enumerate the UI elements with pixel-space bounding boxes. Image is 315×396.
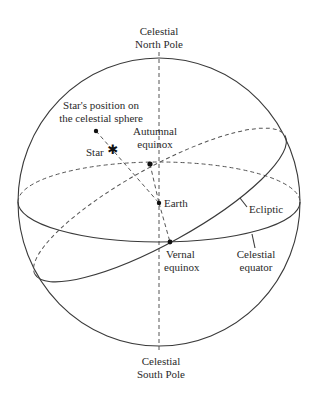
equator-leader <box>252 234 255 248</box>
autumnal-equinox-label-2: equinox <box>137 138 173 150</box>
earth-dot <box>157 201 161 205</box>
south-pole-label-1: Celestial <box>142 355 181 367</box>
autumnal-equinox-label-1: Autumnal <box>133 125 177 137</box>
celestial-equator-label-2: equator <box>240 261 273 273</box>
earth-label: Earth <box>164 197 188 209</box>
ecliptic-label: Ecliptic <box>249 203 283 215</box>
ecliptic-front <box>35 136 304 308</box>
star-label: Star <box>86 146 104 158</box>
north-pole-label-2: North Pole <box>135 38 183 50</box>
autumnal-equinox-dot <box>147 161 152 166</box>
star-position-label-1: Star's position on <box>63 99 139 111</box>
vernal-equinox-label-2: equinox <box>164 261 200 273</box>
ecliptic-leader <box>240 198 247 207</box>
vernal-equinox-dot <box>168 240 173 245</box>
celestial-sphere-diagram: ✱ Celestial North Pole Star's position o… <box>0 0 315 396</box>
autumnal-to-earth-line <box>150 164 159 203</box>
star-icon: ✱ <box>108 142 119 157</box>
north-pole-label-1: Celestial <box>140 25 179 37</box>
celestial-equator-label-1: Celestial <box>237 248 276 260</box>
vernal-equinox-label-1: Vernal <box>166 248 195 260</box>
star-position-label-2: the celestial sphere <box>59 112 143 124</box>
south-pole-label-2: South Pole <box>137 368 185 380</box>
star-position-dot <box>94 129 98 133</box>
